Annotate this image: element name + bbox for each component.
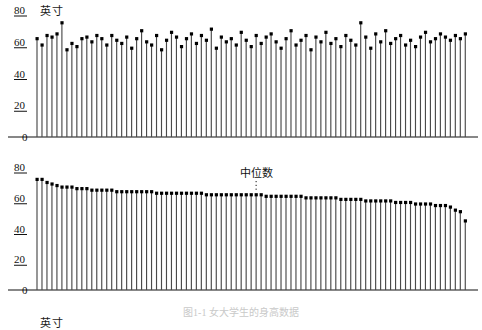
stem-marker: [275, 40, 278, 43]
stem-marker: [419, 35, 422, 38]
figure-caption: 图1-1 女大学生的身高数据: [0, 305, 482, 320]
stem-marker: [329, 42, 332, 45]
stem-marker: [329, 196, 332, 199]
stem-marker: [379, 199, 382, 202]
stem-marker: [314, 35, 317, 38]
stem-marker: [339, 45, 342, 48]
stem-marker: [160, 48, 163, 51]
y-tick-label: 80: [14, 161, 26, 173]
stem-marker: [309, 48, 312, 51]
stem-marker: [354, 198, 357, 201]
stem-marker: [210, 193, 213, 196]
stem-marker: [324, 196, 327, 199]
stem-marker: [205, 39, 208, 42]
stem-marker: [150, 190, 153, 193]
stem-marker: [75, 45, 78, 48]
stem-marker: [90, 40, 93, 43]
stem-marker: [294, 195, 297, 198]
stem-marker: [444, 204, 447, 207]
stem-marker: [235, 193, 238, 196]
stem-marker: [464, 219, 467, 222]
stem-marker: [230, 37, 233, 40]
stem-marker: [334, 37, 337, 40]
stem-marker: [289, 29, 292, 32]
stem-marker: [459, 37, 462, 40]
stem-marker: [95, 34, 98, 37]
stem-marker: [230, 193, 233, 196]
stem-marker: [265, 35, 268, 38]
stem-marker: [120, 42, 123, 45]
stem-marker: [285, 195, 288, 198]
stem-marker: [299, 195, 302, 198]
stem-marker: [115, 39, 118, 42]
stem-marker: [145, 190, 148, 193]
stem-marker: [299, 39, 302, 42]
stem-marker: [414, 202, 417, 205]
stem-marker: [429, 202, 432, 205]
stem-marker: [294, 43, 297, 46]
stem-marker: [170, 31, 173, 34]
stem-marker: [434, 37, 437, 40]
stem-marker: [125, 35, 128, 38]
y-tick-label: 60: [14, 192, 26, 204]
stem-marker: [235, 43, 238, 46]
stem-marker: [424, 31, 427, 34]
stem-marker: [36, 37, 39, 40]
stem-marker: [359, 21, 362, 24]
stem-marker: [45, 34, 48, 37]
stem-marker: [190, 192, 193, 195]
stem-marker: [105, 189, 108, 192]
stem-marker: [185, 37, 188, 40]
stem-marker: [399, 201, 402, 204]
stem-marker: [354, 43, 357, 46]
stem-marker: [304, 34, 307, 37]
stem-marker: [190, 32, 193, 35]
stem-marker: [260, 42, 263, 45]
stem-marker: [215, 193, 218, 196]
stem-marker: [170, 192, 173, 195]
stem-marker: [250, 45, 253, 48]
y-tick-label: 0: [22, 284, 28, 296]
stem-marker: [90, 189, 93, 192]
stem-marker: [85, 187, 88, 190]
stem-marker: [464, 32, 467, 35]
stem-marker: [449, 205, 452, 208]
median-annotation-label: 中位数: [240, 166, 273, 179]
stem-marker: [285, 37, 288, 40]
stem-marker: [85, 35, 88, 38]
stem-marker: [304, 196, 307, 199]
stem-marker: [454, 209, 457, 212]
stem-marker: [240, 31, 243, 34]
stem-marker: [105, 43, 108, 46]
stem-marker: [70, 185, 73, 188]
stem-marker: [369, 47, 372, 50]
stem-marker: [334, 196, 337, 199]
stem-marker: [60, 185, 63, 188]
stem-marker: [160, 192, 163, 195]
stem-marker: [459, 210, 462, 213]
stem-marker: [55, 184, 58, 187]
stem-marker: [50, 182, 53, 185]
stem-marker: [374, 32, 377, 35]
stem-marker: [339, 198, 342, 201]
stem-marker: [175, 35, 178, 38]
stem-marker: [255, 34, 258, 37]
stem-marker: [414, 45, 417, 48]
stem-marker: [70, 42, 73, 45]
stem-marker: [220, 35, 223, 38]
stem-marker: [439, 204, 442, 207]
stem-marker: [80, 187, 83, 190]
stem-marker: [384, 199, 387, 202]
stem-marker: [40, 178, 43, 181]
stem-marker: [110, 34, 113, 37]
stem-marker: [429, 40, 432, 43]
stem-marker: [135, 37, 138, 40]
stem-marker: [384, 29, 387, 32]
stem-marker: [364, 35, 367, 38]
stem-marker: [364, 199, 367, 202]
stem-marker: [195, 42, 198, 45]
stem-marker: [65, 185, 68, 188]
stem-marker: [215, 47, 218, 50]
stem-marker: [100, 189, 103, 192]
